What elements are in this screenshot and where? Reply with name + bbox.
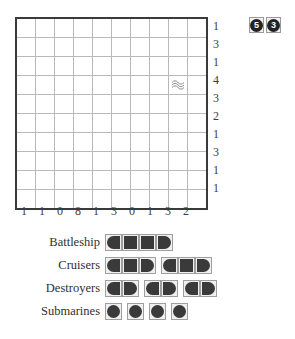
grid-cell[interactable] <box>169 133 188 152</box>
fleet-ship[interactable] <box>171 303 188 320</box>
grid-cell[interactable] <box>93 171 112 190</box>
grid-cell[interactable] <box>131 76 150 95</box>
grid-cell[interactable] <box>131 57 150 76</box>
fleet-ship[interactable] <box>144 280 178 297</box>
grid-cell[interactable] <box>55 38 74 57</box>
grid-cell[interactable] <box>74 57 93 76</box>
grid-cell[interactable] <box>16 57 36 76</box>
grid-cell[interactable] <box>74 171 93 190</box>
grid-cell[interactable] <box>93 152 112 171</box>
grid-cell[interactable] <box>131 18 150 38</box>
grid-cell[interactable] <box>74 152 93 171</box>
grid-cell[interactable] <box>150 38 169 57</box>
grid-cell[interactable] <box>16 152 36 171</box>
grid-cell[interactable] <box>188 171 208 190</box>
grid-cell[interactable] <box>150 152 169 171</box>
grid-cell[interactable] <box>169 95 188 114</box>
grid-cell[interactable] <box>55 95 74 114</box>
grid-cell[interactable] <box>112 18 131 38</box>
grid-cell[interactable] <box>112 133 131 152</box>
fleet-ship[interactable] <box>183 280 217 297</box>
grid-cell[interactable] <box>169 171 188 190</box>
grid-cell[interactable] <box>150 133 169 152</box>
grid-cell[interactable] <box>55 152 74 171</box>
battleship-grid[interactable] <box>15 17 208 210</box>
grid-cell[interactable] <box>16 133 36 152</box>
fleet-ship[interactable] <box>105 303 122 320</box>
grid-cell[interactable] <box>112 95 131 114</box>
grid-cell[interactable] <box>36 152 55 171</box>
grid-cell[interactable] <box>74 95 93 114</box>
grid-cell[interactable] <box>93 133 112 152</box>
grid-cell[interactable] <box>150 18 169 38</box>
grid-cell[interactable] <box>93 114 112 133</box>
grid-cell[interactable] <box>131 114 150 133</box>
grid-cell[interactable] <box>188 76 208 95</box>
grid-cell[interactable] <box>36 38 55 57</box>
grid-cell[interactable] <box>74 133 93 152</box>
grid-cell[interactable] <box>150 171 169 190</box>
grid-cell[interactable] <box>16 18 36 38</box>
fleet-ship[interactable] <box>149 303 166 320</box>
grid-cell[interactable] <box>16 38 36 57</box>
grid-cell[interactable] <box>55 76 74 95</box>
grid-cell[interactable] <box>74 38 93 57</box>
grid-cell[interactable] <box>188 114 208 133</box>
grid-cell[interactable] <box>55 57 74 76</box>
grid-cell[interactable] <box>188 38 208 57</box>
grid-cell[interactable] <box>131 152 150 171</box>
grid-cell[interactable] <box>150 95 169 114</box>
grid-cell[interactable] <box>36 57 55 76</box>
grid-cell[interactable] <box>188 133 208 152</box>
grid-cell[interactable] <box>188 152 208 171</box>
grid-cell[interactable] <box>55 114 74 133</box>
grid-cell[interactable] <box>55 133 74 152</box>
grid-cell[interactable] <box>36 114 55 133</box>
grid-cell[interactable] <box>112 57 131 76</box>
grid-cell[interactable] <box>93 57 112 76</box>
grid-cell[interactable] <box>36 76 55 95</box>
grid-cell[interactable] <box>36 95 55 114</box>
grid-cell[interactable] <box>131 95 150 114</box>
fleet-ship[interactable] <box>105 280 139 297</box>
fleet-ship[interactable] <box>161 257 212 274</box>
grid-cell[interactable] <box>55 18 74 38</box>
grid-cell[interactable] <box>112 76 131 95</box>
grid-cell[interactable] <box>112 114 131 133</box>
grid-cell[interactable] <box>93 95 112 114</box>
grid-cell[interactable] <box>131 133 150 152</box>
grid-cell[interactable] <box>131 38 150 57</box>
grid-cell[interactable] <box>112 38 131 57</box>
grid-cell[interactable] <box>74 76 93 95</box>
grid-cell[interactable] <box>150 76 169 95</box>
fleet-ship[interactable] <box>105 234 173 251</box>
grid-cell[interactable] <box>150 57 169 76</box>
grid-cell[interactable] <box>93 38 112 57</box>
grid-cell[interactable] <box>188 57 208 76</box>
grid-cell[interactable] <box>169 152 188 171</box>
grid-cell[interactable] <box>112 152 131 171</box>
fleet-ship[interactable] <box>127 303 144 320</box>
grid-cell[interactable] <box>16 171 36 190</box>
grid-cell[interactable] <box>16 114 36 133</box>
grid-cell[interactable] <box>188 95 208 114</box>
grid-cell[interactable] <box>169 57 188 76</box>
grid-cell[interactable] <box>36 18 55 38</box>
grid-cell[interactable] <box>93 76 112 95</box>
grid-cell[interactable] <box>74 18 93 38</box>
grid-cell[interactable] <box>93 18 112 38</box>
wave-icon[interactable] <box>169 76 188 95</box>
grid-cell[interactable] <box>169 18 188 38</box>
grid-cell[interactable] <box>55 171 74 190</box>
grid-cell[interactable] <box>16 76 36 95</box>
grid-cell[interactable] <box>150 114 169 133</box>
grid-cell[interactable] <box>169 38 188 57</box>
grid-cell[interactable] <box>112 171 131 190</box>
fleet-ship[interactable] <box>105 257 156 274</box>
grid-cell[interactable] <box>131 171 150 190</box>
grid-cell[interactable] <box>16 95 36 114</box>
grid-cell[interactable] <box>74 114 93 133</box>
grid-cell[interactable] <box>36 171 55 190</box>
grid-cell[interactable] <box>188 18 208 38</box>
grid-cell[interactable] <box>36 133 55 152</box>
